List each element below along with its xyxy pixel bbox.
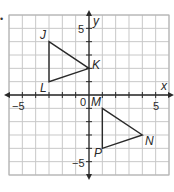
y-axis-label: y <box>92 14 100 28</box>
vertex-label-p: P <box>94 146 102 160</box>
vertex-label-l: L <box>40 81 47 95</box>
y-axis-down-arrow-icon <box>86 174 92 180</box>
x-tick-5: 5 <box>153 100 159 112</box>
x-axis-right-arrow-icon <box>168 92 174 98</box>
triangle-mnp <box>102 108 142 148</box>
y-tick-5: 5 <box>78 23 84 35</box>
y-axis-up-arrow-icon <box>86 10 92 16</box>
y-tick-neg5: −5 <box>72 157 85 169</box>
vertex-label-j: J <box>39 28 47 42</box>
vertex-label-k: K <box>92 58 101 72</box>
coordinate-plane: x y −5 5 5 −5 0 J K L M N P <box>0 0 174 192</box>
x-tick-neg5: −5 <box>12 100 25 112</box>
origin-label: 0 <box>80 96 86 108</box>
x-axis-left-arrow-icon <box>4 92 10 98</box>
vertex-label-m: M <box>91 95 101 109</box>
vertex-label-n: N <box>145 134 154 148</box>
x-axis-label: x <box>160 79 168 93</box>
triangle-jkl <box>49 42 89 82</box>
